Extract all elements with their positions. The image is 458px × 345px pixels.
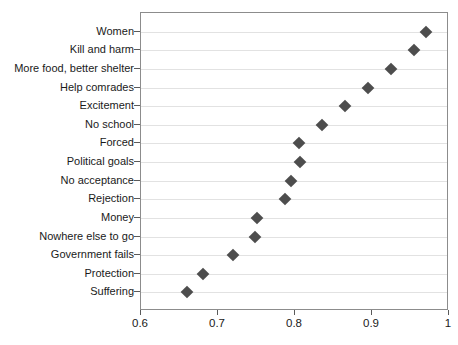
y-axis-tick-label: Kill and harm (70, 44, 134, 55)
y-axis-tick-mark (134, 217, 140, 218)
data-point (181, 286, 194, 299)
y-axis-tick-mark (134, 124, 140, 125)
y-axis-tick-mark (134, 87, 140, 88)
gridline (141, 237, 447, 238)
data-point (227, 249, 240, 262)
y-axis-tick-label: Political goals (67, 156, 134, 167)
gridline (141, 69, 447, 70)
y-axis-tick-label: Women (96, 25, 134, 36)
y-axis-tick-mark (134, 142, 140, 143)
y-axis-tick-label: More food, better shelter (14, 62, 134, 73)
data-point (285, 174, 298, 187)
x-axis-tick-label: 0.6 (132, 318, 148, 330)
data-point (292, 137, 305, 150)
data-point (249, 230, 262, 243)
y-axis-tick-label: Money (101, 211, 134, 222)
x-axis-tick-mark (140, 310, 141, 315)
y-axis-tick-mark (134, 236, 140, 237)
gridline (141, 255, 447, 256)
x-axis-tick-mark (448, 310, 449, 315)
data-point (385, 63, 398, 76)
gridline (141, 274, 447, 275)
data-point (339, 100, 352, 113)
data-point (408, 44, 421, 57)
x-axis-tick-mark (294, 310, 295, 315)
y-axis-tick-label: No acceptance (61, 174, 134, 185)
dot-plot-figure: WomenKill and harmMore food, better shel… (0, 0, 458, 345)
y-axis-tick-label: Excitement (80, 100, 134, 111)
x-axis-tick-mark (217, 310, 218, 315)
x-axis-tick-label: 0.9 (363, 318, 379, 330)
y-axis-tick-label: Protection (84, 267, 134, 278)
y-axis-tick-mark (134, 49, 140, 50)
gridline (141, 32, 447, 33)
y-axis-tick-label: Help comrades (60, 81, 134, 92)
data-point (279, 193, 292, 206)
gridline (141, 125, 447, 126)
data-point (316, 118, 329, 131)
y-axis-tick-label: Rejection (88, 193, 134, 204)
gridline (141, 106, 447, 107)
data-point (420, 25, 433, 38)
data-point (362, 81, 375, 94)
y-axis-tick-mark (134, 254, 140, 255)
y-axis-tick-mark (134, 291, 140, 292)
y-axis-tick-label: Nowhere else to go (39, 230, 134, 241)
gridline (141, 88, 447, 89)
y-axis-tick-mark (134, 68, 140, 69)
x-axis-tick-label: 0.8 (286, 318, 302, 330)
y-axis-tick-mark (134, 105, 140, 106)
data-point (294, 156, 307, 169)
y-axis-tick-mark (134, 31, 140, 32)
y-axis-tick-label: Suffering (90, 286, 134, 297)
y-axis-tick-label: No school (85, 118, 134, 129)
x-axis-tick-label: 1 (445, 318, 451, 330)
gridline (141, 199, 447, 200)
y-axis-tick-label: Government fails (51, 249, 134, 260)
y-axis-tick-label: Forced (100, 137, 134, 148)
y-axis-tick-mark (134, 273, 140, 274)
y-axis-tick-mark (134, 161, 140, 162)
gridline (141, 50, 447, 51)
x-axis-tick-label: 0.7 (209, 318, 225, 330)
y-axis-tick-mark (134, 198, 140, 199)
gridline (141, 218, 447, 219)
data-point (250, 212, 263, 225)
data-point (196, 267, 209, 280)
y-axis-tick-mark (134, 180, 140, 181)
plot-area (140, 12, 448, 310)
x-axis-tick-mark (371, 310, 372, 315)
